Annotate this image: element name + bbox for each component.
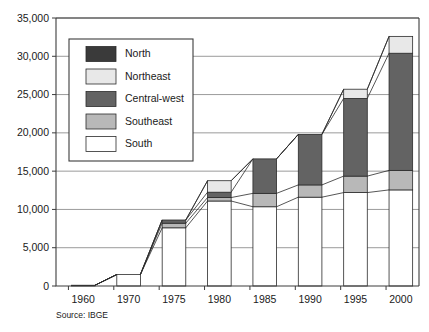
bar-segment xyxy=(253,159,277,193)
x-tick-label: 1980 xyxy=(208,293,232,305)
bar-segment xyxy=(162,228,186,286)
y-tick-label: 20,000 xyxy=(17,126,49,138)
x-tick-label: 1960 xyxy=(72,293,96,305)
chart-container: 05,00010,00015,00020,00025,00030,00035,0… xyxy=(0,0,429,332)
source-label: Source: IBGE xyxy=(56,310,108,320)
y-tick-label: 30,000 xyxy=(17,50,49,62)
legend-swatch xyxy=(86,47,116,62)
source-caption: Source: IBGE xyxy=(56,310,108,320)
connector-line xyxy=(367,190,389,193)
bar-segment xyxy=(344,89,368,98)
connector-line xyxy=(186,198,208,224)
bar-segment xyxy=(117,275,141,286)
connector-line xyxy=(322,98,344,134)
bar-segment xyxy=(253,193,277,206)
y-tick-label: 35,000 xyxy=(17,12,49,24)
bar-segment xyxy=(389,170,413,190)
connector-line xyxy=(277,185,299,193)
legend-swatch xyxy=(86,114,116,129)
bar-segment xyxy=(208,198,232,201)
connector-line xyxy=(322,89,344,134)
connector-line xyxy=(277,134,299,159)
bar-segment xyxy=(344,193,368,286)
connector-line xyxy=(322,193,344,198)
bar-segment xyxy=(162,223,186,228)
x-tick-label: 1970 xyxy=(117,293,141,305)
bar-segment xyxy=(298,185,322,197)
bar-segment xyxy=(344,176,368,192)
legend-swatch xyxy=(86,137,116,152)
connector-line xyxy=(231,193,253,197)
bar-segment xyxy=(344,98,368,176)
x-axis-ticks: 19601970197519801985199019952000 xyxy=(68,286,412,305)
bar-segment xyxy=(162,220,186,223)
bar-segment xyxy=(389,53,413,170)
bar-segment xyxy=(298,134,322,185)
connector-line xyxy=(367,36,389,89)
stacked-bar-chart: 05,00010,00015,00020,00025,00030,00035,0… xyxy=(0,0,429,332)
bar-segment xyxy=(208,192,232,197)
x-tick-label: 1975 xyxy=(162,293,186,305)
bar-segment xyxy=(208,181,232,192)
connector-line xyxy=(95,275,117,286)
chart-legend: NorthNortheastCentral-westSoutheastSouth xyxy=(69,39,193,161)
y-tick-label: 10,000 xyxy=(17,203,49,215)
connector-line xyxy=(367,53,389,98)
connector-line xyxy=(231,201,253,207)
connector-line xyxy=(231,159,253,192)
x-tick-label: 2000 xyxy=(389,293,413,305)
x-tick-label: 1985 xyxy=(253,293,277,305)
y-tick-label: 5,000 xyxy=(23,241,49,253)
y-tick-label: 0 xyxy=(43,280,49,292)
y-tick-label: 25,000 xyxy=(17,88,49,100)
connector-line xyxy=(186,192,208,220)
legend-label: North xyxy=(125,47,151,59)
y-tick-label: 15,000 xyxy=(17,165,49,177)
connector-line xyxy=(231,159,253,181)
legend-label: Northeast xyxy=(125,70,171,82)
connector-line xyxy=(277,197,299,207)
x-tick-label: 1990 xyxy=(298,293,322,305)
connector-line xyxy=(322,176,344,185)
bar-segment xyxy=(389,36,413,53)
x-tick-label: 1995 xyxy=(344,293,368,305)
legend-label: South xyxy=(125,137,153,149)
y-axis-ticks: 05,00010,00015,00020,00025,00030,00035,0… xyxy=(17,12,56,292)
legend-swatch xyxy=(86,69,116,84)
bar-segment xyxy=(298,197,322,286)
legend-label: Southeast xyxy=(125,115,172,127)
legend-swatch xyxy=(86,92,116,107)
legend-label: Central-west xyxy=(125,92,184,104)
bar-segment xyxy=(389,190,413,286)
connector-line xyxy=(140,220,162,275)
bar-segment xyxy=(208,201,232,286)
bar-segment xyxy=(253,207,277,286)
